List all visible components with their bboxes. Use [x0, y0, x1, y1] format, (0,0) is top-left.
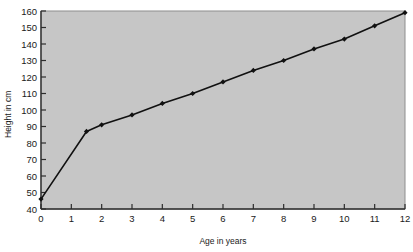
x-tick-label: 4 — [160, 213, 165, 224]
y-tick-label: 110 — [22, 88, 37, 99]
x-tick-label: 5 — [190, 213, 195, 224]
y-tick-label: 50 — [26, 187, 37, 198]
y-tick-label: 90 — [26, 121, 37, 132]
x-tick-label: 7 — [251, 213, 256, 224]
y-tick-label: 150 — [21, 22, 37, 33]
x-axis-title: Age in years — [199, 236, 246, 246]
height-vs-age-line-chart: 160 150 140 130 120 110 100 90 80 70 60 … — [0, 0, 413, 252]
y-tick-label: 130 — [21, 55, 37, 66]
x-tick-label: 2 — [99, 213, 104, 224]
y-tick-label: 40 — [26, 204, 37, 215]
y-tick-label: 160 — [21, 6, 37, 17]
x-tick-label: 12 — [400, 213, 411, 224]
x-tick-label: 8 — [281, 213, 286, 224]
x-tick-label: 1 — [69, 213, 74, 224]
chart-container: 160 150 140 130 120 110 100 90 80 70 60 … — [0, 0, 413, 252]
x-tick-label: 11 — [370, 213, 380, 224]
x-tick-label: 9 — [311, 213, 316, 224]
y-axis-title: Height in cm — [3, 91, 13, 138]
y-tick-label: 70 — [26, 154, 37, 165]
x-tick-label: 0 — [38, 213, 43, 224]
plot-area-background — [41, 11, 405, 209]
y-tick-label: 140 — [21, 39, 37, 50]
y-tick-label: 120 — [21, 72, 37, 83]
x-tick-label: 10 — [339, 213, 350, 224]
x-tick-label: 3 — [129, 213, 134, 224]
x-tick-label: 6 — [220, 213, 225, 224]
y-tick-label: 60 — [26, 171, 37, 182]
y-tick-label: 80 — [26, 138, 37, 149]
y-tick-label: 100 — [21, 105, 37, 116]
